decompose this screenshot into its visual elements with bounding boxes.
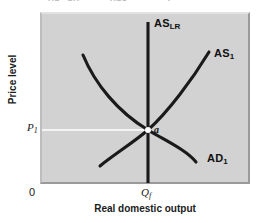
curve-label-as1: AS1 xyxy=(214,47,234,59)
curve-label-ad1-text: AD xyxy=(207,152,223,164)
curve-label-ad1-subscript: 1 xyxy=(223,157,227,166)
curves-layer xyxy=(0,0,270,223)
curve-label-aslr: ASLR xyxy=(154,17,180,29)
ad-as-diagram-figure: AS LR AS1 P a ASLR AS1 AD1 P1 Qf 0 Price… xyxy=(0,0,270,223)
curve-label-as1-text: AS xyxy=(214,47,230,59)
y-axis-tick-label-p1: P1 xyxy=(27,121,38,133)
curve-label-as1-subscript: 1 xyxy=(230,52,234,61)
y-axis-tick-subscript: 1 xyxy=(34,126,38,135)
curve-label-aslr-subscript: LR xyxy=(170,22,181,31)
curve-label-aslr-text: AS xyxy=(154,17,170,29)
curve-label-ad1: AD1 xyxy=(207,152,228,164)
origin-label: 0 xyxy=(29,186,35,198)
ad1-curve xyxy=(83,55,196,162)
equilibrium-point-label: a xyxy=(154,124,159,135)
y-axis-title: Price level xyxy=(7,40,18,120)
x-axis-tick-subscript: f xyxy=(149,191,151,200)
equilibrium-point-marker xyxy=(145,127,151,133)
x-axis-title: Real domestic output xyxy=(40,203,250,214)
x-axis-tick-symbol: Q xyxy=(141,186,149,198)
as1-curve xyxy=(100,52,209,166)
x-axis-tick-label-qf: Qf xyxy=(141,186,151,198)
y-axis-tick-symbol: P xyxy=(27,121,34,133)
